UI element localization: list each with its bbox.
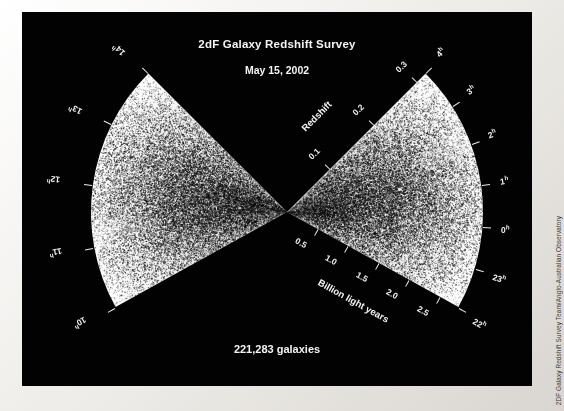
ra-tick-1h: 1h (499, 174, 509, 187)
ra-tick-12h: 12h (46, 173, 61, 187)
survey-date: May 15, 2002 (22, 64, 532, 76)
credit-text: 2DF Galaxy Redshift Survey Team/Anglo-Au… (555, 216, 562, 405)
page-title: 2dF Galaxy Redshift Survey (22, 38, 532, 50)
figure-root: 2dF Galaxy Redshift Survey May 15, 2002 … (0, 0, 564, 411)
galaxy-count-label: 221,283 galaxies (22, 343, 532, 355)
ra-tick-0h: 0h (501, 223, 510, 235)
plot-area: 2dF Galaxy Redshift Survey May 15, 2002 … (22, 12, 532, 386)
